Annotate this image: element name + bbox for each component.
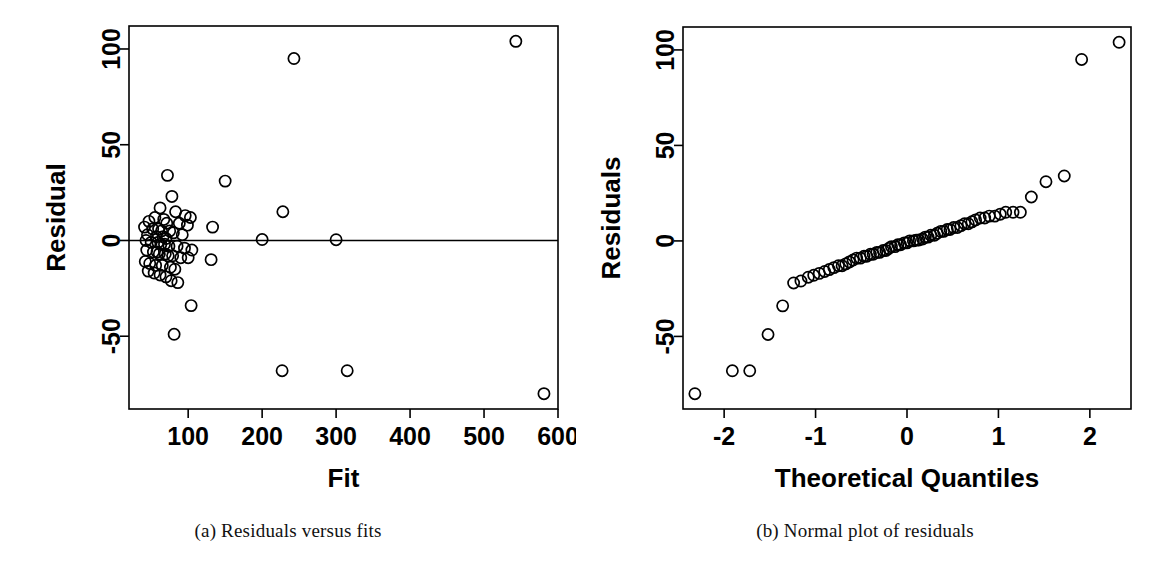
data-point (166, 191, 177, 202)
data-point-group (139, 36, 550, 400)
y-tick-label: 50 (97, 131, 125, 159)
x-tick-label: 100 (167, 422, 209, 450)
y-tick-label: 0 (651, 234, 679, 248)
y-tick-label: -50 (97, 318, 125, 354)
data-point (1040, 176, 1051, 187)
data-point-group (689, 37, 1124, 400)
panel-residuals-versus-fits: 100200300400500600-50050100FitResidual (… (0, 0, 576, 578)
x-axis-title: Theoretical Quantiles (775, 463, 1039, 493)
y-axis-title: Residual (41, 163, 71, 271)
panel-normal-plot-of-residuals: -2-1012-50050100Theoretical QuantilesRes… (577, 0, 1153, 578)
data-point (169, 329, 180, 340)
data-point (777, 300, 788, 311)
panel-b-caption: (b) Normal plot of residuals (577, 520, 1153, 542)
y-tick-label: -50 (651, 318, 679, 354)
x-tick-label: 500 (463, 422, 505, 450)
data-point (220, 176, 231, 187)
data-point (744, 365, 755, 376)
panel-a-caption: (a) Residuals versus fits (0, 520, 576, 542)
x-tick-label: 600 (537, 422, 576, 450)
y-tick-label: 50 (651, 132, 679, 160)
x-tick-label: 2 (1083, 422, 1097, 450)
figure-root: 100200300400500600-50050100FitResidual (… (0, 0, 1153, 578)
data-point (172, 277, 183, 288)
data-point (342, 365, 353, 376)
data-point (288, 53, 299, 64)
data-point (510, 36, 521, 47)
data-point (277, 206, 288, 217)
x-tick-label: 300 (315, 422, 357, 450)
data-point (1015, 207, 1026, 218)
data-point (186, 300, 197, 311)
data-point (727, 365, 738, 376)
x-tick-label: -2 (713, 422, 735, 450)
data-point (762, 329, 773, 340)
data-point (331, 234, 342, 245)
data-point (162, 170, 173, 181)
plot-frame (129, 26, 558, 409)
x-axis-title: Fit (328, 463, 360, 493)
x-tick-label: 0 (900, 422, 914, 450)
y-tick-label: 100 (651, 29, 679, 71)
data-point (689, 388, 700, 399)
x-tick-label: 400 (389, 422, 431, 450)
data-point (788, 277, 799, 288)
y-tick-label: 0 (97, 234, 125, 248)
y-tick-label: 100 (97, 28, 125, 70)
x-tick-label: 1 (991, 422, 1005, 450)
y-axis-title: Residuals (596, 157, 626, 280)
data-point (1114, 37, 1125, 48)
x-tick-label: 200 (241, 422, 283, 450)
data-point (1059, 170, 1070, 181)
normal-plot-of-residuals-plot: -2-1012-50050100Theoretical QuantilesRes… (577, 0, 1153, 520)
data-point (257, 234, 268, 245)
data-point (538, 388, 549, 399)
plot-frame (683, 27, 1131, 409)
data-point (207, 221, 218, 232)
data-point (1076, 54, 1087, 65)
data-point (1026, 191, 1037, 202)
residuals-versus-fits-plot: 100200300400500600-50050100FitResidual (0, 0, 576, 520)
data-point (206, 254, 217, 265)
x-tick-label: -1 (804, 422, 826, 450)
data-point (277, 365, 288, 376)
